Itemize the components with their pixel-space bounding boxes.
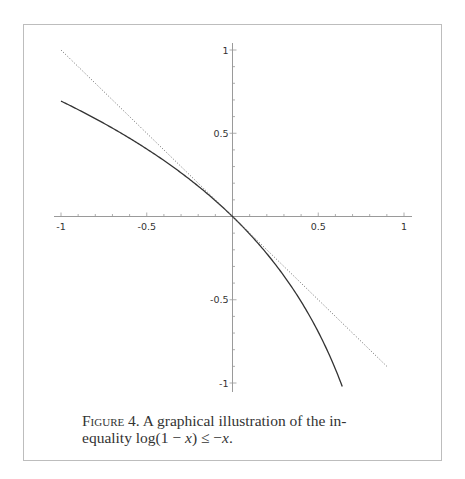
y-tick-label: 1 bbox=[222, 45, 228, 56]
chart-plot: -1-0.50.5110.5-0.5-1 bbox=[0, 0, 465, 479]
caption-var-x: x bbox=[185, 429, 192, 446]
y-tick-label: -0.5 bbox=[210, 294, 229, 305]
caption-var-x2: x bbox=[222, 429, 229, 446]
x-tick-label: 0.5 bbox=[311, 221, 326, 232]
caption-line2-mid: ) ≤ − bbox=[192, 429, 222, 446]
x-tick-label: 1 bbox=[401, 221, 407, 232]
x-tick-label: -1 bbox=[56, 221, 65, 232]
data-series bbox=[61, 50, 387, 387]
y-tick-label: -1 bbox=[219, 378, 228, 389]
x-tick-label: -0.5 bbox=[137, 221, 156, 232]
caption-line2-end: . bbox=[229, 429, 233, 446]
series-log-curve bbox=[61, 101, 342, 387]
y-tick-label: 0.5 bbox=[213, 128, 228, 139]
figure-label: Figure 4. bbox=[82, 412, 140, 429]
figure-caption: Figure 4. A graphical illustration of th… bbox=[82, 412, 402, 446]
caption-line1: A graphical illustration of the in- bbox=[143, 412, 347, 429]
caption-line2-prefix: equality log(1 − bbox=[82, 429, 185, 446]
